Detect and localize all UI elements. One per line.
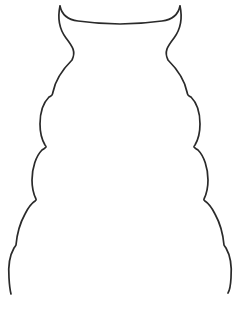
canvas-background — [0, 0, 241, 312]
drawing-canvas — [0, 0, 241, 312]
horned-creature-outline-illustration — [0, 0, 241, 312]
